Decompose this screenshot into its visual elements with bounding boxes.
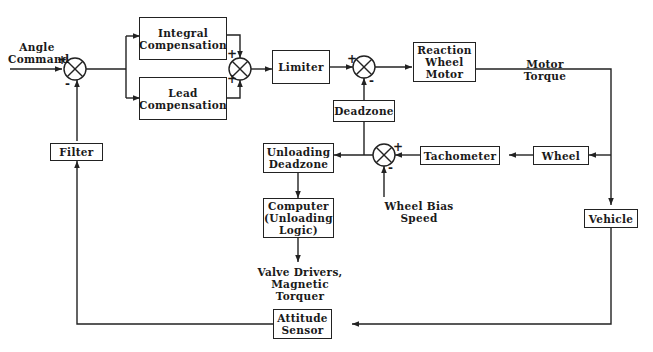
tachometer-block: Tachometer xyxy=(420,146,500,165)
sj3-minus-sign: - xyxy=(369,75,374,87)
sj4-plus-sign: + xyxy=(393,141,403,153)
filter-block: Filter xyxy=(50,143,103,161)
deadzone-block: Deadzone xyxy=(333,100,395,122)
vehicle-block: Vehicle xyxy=(584,209,638,228)
limiter-block: Limiter xyxy=(272,50,330,84)
reaction-wheel-motor-block: Reaction Wheel Motor xyxy=(413,42,476,82)
unloading-deadzone-block: Unloading Deadzone xyxy=(263,143,334,173)
sj2-plus-sign-bottom: + xyxy=(227,73,237,85)
computer-unloading-logic-block: Computer (Unloading Logic) xyxy=(263,198,334,238)
integral-compensation-block: Integral Compensation xyxy=(139,17,227,60)
sj2-plus-sign-top: + xyxy=(227,48,237,60)
wheel-block: Wheel xyxy=(533,146,589,165)
sj1-minus-sign: - xyxy=(65,78,70,90)
sj3-plus-sign: + xyxy=(347,53,357,65)
angle-command-label: Angle Command xyxy=(8,41,66,65)
attitude-sensor-block: Attitude Sensor xyxy=(273,309,332,339)
sj4-minus-sign: - xyxy=(388,162,393,174)
valve-drivers-label: Valve Drivers, Magnetic Torquer xyxy=(246,266,354,302)
motor-torque-label: Motor Torque xyxy=(505,58,585,82)
wheel-bias-speed-label: Wheel Bias Speed xyxy=(364,200,474,224)
lead-compensation-block: Lead Compensation xyxy=(139,77,227,120)
